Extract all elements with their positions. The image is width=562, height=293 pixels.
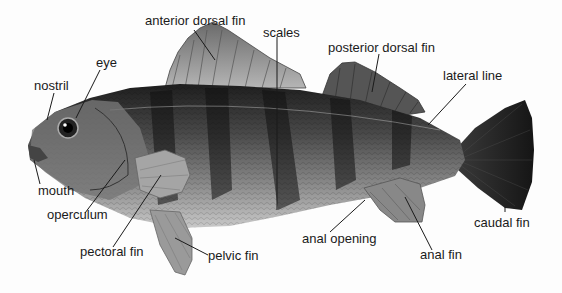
label-nostril: nostril [34, 79, 69, 93]
caudal-fin-shape [455, 100, 534, 210]
label-anal-opening: anal opening [302, 232, 376, 246]
label-mouth: mouth [38, 184, 74, 198]
label-eye: eye [96, 56, 117, 70]
label-caudal-fin: caudal fin [474, 216, 530, 230]
label-anterior-dorsal-fin: anterior dorsal fin [145, 14, 245, 28]
label-anal-fin: anal fin [420, 248, 462, 262]
label-scales: scales [263, 26, 300, 40]
pectoral-fin-shape [135, 150, 190, 198]
label-operculum: operculum [47, 208, 108, 222]
label-posterior-dorsal-fin: posterior dorsal fin [328, 41, 435, 55]
label-lateral-line: lateral line [443, 69, 502, 83]
label-pelvic-fin: pelvic fin [208, 249, 259, 263]
label-pectoral-fin: pectoral fin [80, 245, 144, 259]
fish-anatomy-diagram: anterior dorsal fin scales posterior dor… [0, 0, 562, 293]
